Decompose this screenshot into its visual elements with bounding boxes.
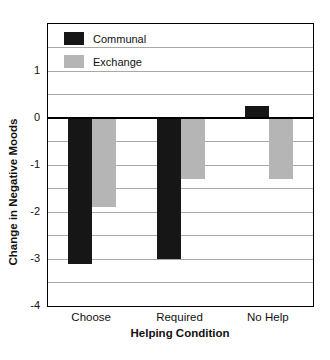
x-category-label-choose: Choose xyxy=(71,311,111,323)
legend: Communal Exchange xyxy=(64,27,146,73)
y-tick-label: -3 xyxy=(8,251,40,265)
y-tick-label: 0 xyxy=(8,110,40,124)
bar-communal-choose xyxy=(68,118,92,264)
x-category-label-no-help: No Help xyxy=(247,311,289,323)
bar-communal-required xyxy=(157,118,181,259)
y-tick-label: 1 xyxy=(8,63,40,77)
legend-label-exchange: Exchange xyxy=(93,56,142,68)
legend-item-exchange: Exchange xyxy=(64,50,146,73)
x-axis-title: Helping Condition xyxy=(130,327,229,339)
x-category-label-required: Required xyxy=(156,311,203,323)
bar-exchange-no-help xyxy=(269,118,293,179)
communal-swatch-icon xyxy=(64,32,84,45)
bar-exchange-choose xyxy=(92,118,116,207)
y-tick-label: -2 xyxy=(8,204,40,218)
legend-item-communal: Communal xyxy=(64,27,146,50)
gridline xyxy=(48,94,313,95)
y-tick-label: -1 xyxy=(8,157,40,171)
plot-area: Communal Exchange xyxy=(47,23,314,307)
legend-label-communal: Communal xyxy=(93,33,146,45)
y-axis-title: Change in Negative Moods xyxy=(7,119,19,266)
figure: Change in Negative Moods Communal Exchan… xyxy=(0,0,330,360)
zero-line xyxy=(48,117,313,119)
gridline xyxy=(48,282,313,283)
y-tick-label: -4 xyxy=(8,298,40,312)
bar-exchange-required xyxy=(181,118,205,179)
exchange-swatch-icon xyxy=(64,55,84,68)
